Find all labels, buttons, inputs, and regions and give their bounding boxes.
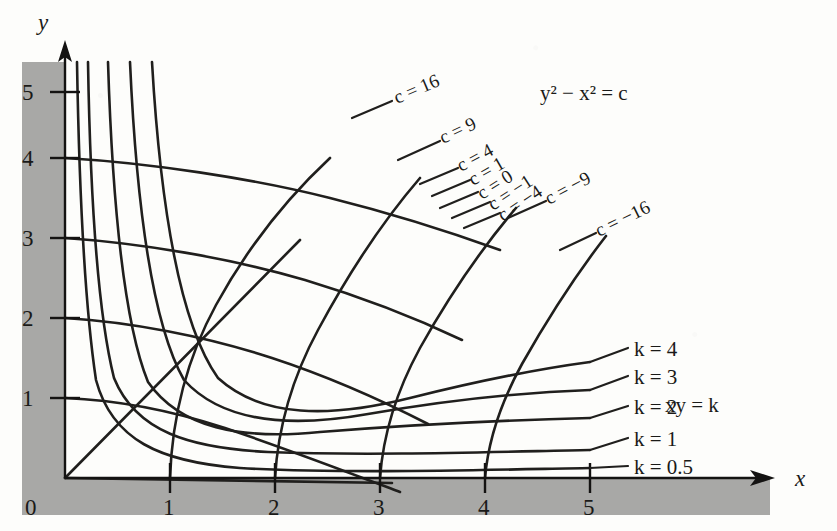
leader-k-4 [590,348,628,362]
c-label-neg-9: c = −9 [541,167,594,208]
leader-k-0-5 [590,466,628,468]
y-ticklabel-5: 5 [22,80,34,105]
y-axis-label: y [36,10,49,35]
origin-label: 0 [25,495,37,520]
k-label-2: k = 2 [634,395,677,419]
level-curves-figure: y x 5 4 3 2 1 0 1 2 3 4 5 y² − x² = c xy… [0,0,837,531]
leader-k-3 [590,376,628,390]
c-label-16: c = 16 [390,70,442,108]
x-ticklabel-2: 2 [268,495,280,520]
k-label-0-5: k = 0.5 [634,455,693,479]
k-label-3: k = 3 [634,365,677,389]
leader-c-1 [432,180,470,196]
leader-c-4 [420,168,458,184]
curve-c-4 [65,318,428,424]
equation-hyperbola-family: y² − x² = c [540,81,628,105]
y-ticklabel-3: 3 [22,226,34,251]
x-ticklabel-4: 4 [478,495,490,520]
x-ticklabel-1: 1 [163,495,175,520]
x-ticklabel-5: 5 [583,495,595,520]
curve-c-neg-1 [170,158,330,478]
y-ticklabel-2: 2 [22,306,34,331]
leader-c-neg-1 [452,202,490,218]
curve-c-16 [65,158,500,250]
k-label-4: k = 4 [634,337,678,361]
y-ticklabel-1: 1 [22,386,34,411]
curve-k-2 [108,62,590,434]
figure-canvas: y x 5 4 3 2 1 0 1 2 3 4 5 y² − x² = c xy… [0,0,837,531]
x-ticklabel-3: 3 [373,495,385,520]
leader-c-neg-4 [464,213,500,228]
x-axis-label: x [794,466,806,491]
c-label-neg-16: c = −16 [592,196,654,240]
leader-c-9 [398,141,440,160]
leader-c-16 [352,101,392,118]
k-label-leaders [590,348,628,468]
c-label-9: c = 9 [436,112,479,147]
curve-c-neg-16 [485,236,606,478]
y-ticklabel-4: 4 [22,146,34,171]
k-label-1: k = 1 [634,427,677,451]
leader-c-neg-16 [560,233,596,250]
leader-k-2 [590,406,628,418]
leader-k-1 [590,438,628,450]
leader-c-0 [440,192,478,208]
